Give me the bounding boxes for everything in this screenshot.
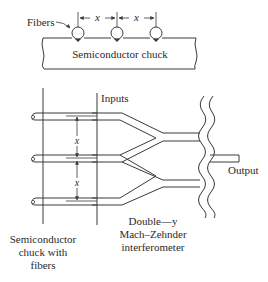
top-view: Fibers x x: [27, 11, 197, 69]
fiber-cross-section: [150, 27, 162, 42]
output-label: Output: [228, 164, 259, 176]
input-fiber-2: [31, 155, 97, 162]
chuck-caption: Semiconductor chuck with fibers: [10, 233, 77, 271]
svg-text:Mach–Zehnder: Mach–Zehnder: [119, 228, 187, 240]
fibers-leader-arrow: [56, 22, 70, 28]
svg-text:interferometer: interferometer: [122, 241, 185, 253]
diagram-canvas: Fibers x x: [0, 0, 268, 282]
break-line: [199, 96, 207, 218]
output-waveguide: [210, 155, 239, 162]
bottom-view: Inputs x x: [10, 88, 259, 271]
svg-text:x: x: [74, 135, 80, 146]
svg-text:chuck with: chuck with: [19, 246, 68, 258]
mach-zehnder-waveguides: [92, 113, 200, 205]
svg-text:Semiconductor: Semiconductor: [10, 233, 77, 245]
fibers-label: Fibers: [27, 16, 55, 28]
svg-text:fibers: fibers: [30, 259, 55, 271]
spacing-label-x: x: [94, 11, 100, 23]
fiber-cross-section: [111, 27, 123, 42]
svg-text:Double—y: Double—y: [129, 215, 178, 227]
input-fiber-1: [31, 113, 97, 120]
spacing-label-x: x: [133, 11, 139, 23]
svg-text:x: x: [74, 177, 80, 188]
chuck-label: Semiconductor chuck: [72, 48, 168, 60]
vertical-spacing-dimension: x x: [74, 117, 80, 200]
inputs-label: Inputs: [101, 92, 129, 104]
break-line: [208, 96, 216, 218]
fiber-cross-section: [72, 27, 84, 42]
input-fiber-3: [31, 198, 97, 205]
device-caption: Double—y Mach–Zehnder interferometer: [119, 215, 187, 253]
